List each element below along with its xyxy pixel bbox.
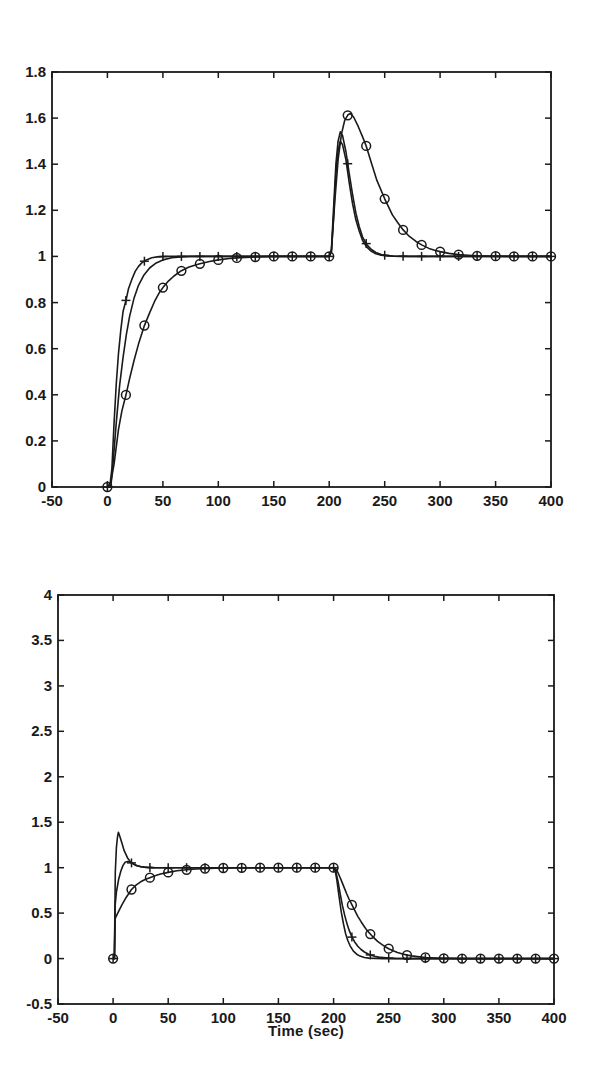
series-line-slow-response — [107, 114, 551, 488]
y-axis: 00.20.40.60.811.21.41.61.8 — [25, 63, 551, 495]
series-line-fast-response — [107, 132, 551, 487]
y-tick-label: 0 — [44, 950, 52, 967]
y-tick-label: 4 — [44, 586, 53, 603]
x-tick-label: 350 — [483, 492, 508, 509]
y-tick-label: 0.4 — [25, 386, 47, 403]
top-chart: -5005010015020025030035040000.20.40.60.8… — [25, 63, 563, 509]
y-tick-label: 0.5 — [31, 904, 52, 921]
series-markers-fast-response — [109, 858, 559, 963]
y-tick-label: 1 — [38, 247, 46, 264]
y-tick-label: 3.5 — [31, 631, 52, 648]
y-tick-label: 1.2 — [25, 201, 46, 218]
y-tick-label: 1 — [44, 859, 52, 876]
x-axis-title: Time (sec) — [58, 1022, 554, 1039]
x-axis: -50050100150200250300350400 — [41, 72, 563, 509]
y-tick-label: 2.5 — [31, 722, 52, 739]
x-tick-label: 250 — [372, 492, 397, 509]
plot-frame — [52, 72, 551, 487]
x-tick-label: 50 — [155, 492, 172, 509]
plot-frame — [58, 595, 554, 1004]
y-tick-label: 1.8 — [25, 63, 46, 80]
charts-canvas: -5005010015020025030035040000.20.40.60.8… — [0, 0, 593, 1073]
x-tick-label: 400 — [538, 492, 563, 509]
x-tick-label: 300 — [428, 492, 453, 509]
y-tick-label: 3 — [44, 677, 52, 694]
scanned-figure-page: -5005010015020025030035040000.20.40.60.8… — [0, 0, 593, 1073]
y-tick-label: 0.6 — [25, 340, 46, 357]
series-line-medium-response — [107, 141, 551, 487]
y-tick-label: 1.6 — [25, 109, 46, 126]
x-tick-label: 150 — [261, 492, 286, 509]
x-tick-label: 200 — [317, 492, 342, 509]
bottom-chart: -50050100150200250300350400-0.500.511.52… — [26, 586, 566, 1026]
x-axis: -50050100150200250300350400 — [47, 595, 566, 1026]
y-tick-label: 1.5 — [31, 813, 52, 830]
series-markers-slow-response — [109, 863, 559, 963]
y-tick-label: 2 — [44, 768, 52, 785]
x-tick-label: 0 — [103, 492, 111, 509]
series-line-spike-response — [113, 832, 554, 958]
y-tick-label: 1.4 — [25, 155, 47, 172]
y-tick-label: -0.5 — [26, 995, 52, 1012]
y-tick-label: 0 — [38, 478, 46, 495]
y-tick-label: 0.8 — [25, 294, 46, 311]
y-tick-label: 0.2 — [25, 432, 46, 449]
series-line-slow-response — [113, 868, 554, 959]
x-tick-label: 100 — [206, 492, 231, 509]
y-axis: -0.500.511.522.533.54 — [26, 586, 554, 1012]
series-line-fast-response — [113, 862, 554, 959]
series-markers-slow-response — [103, 111, 555, 492]
series-markers-fast-response — [103, 159, 556, 491]
